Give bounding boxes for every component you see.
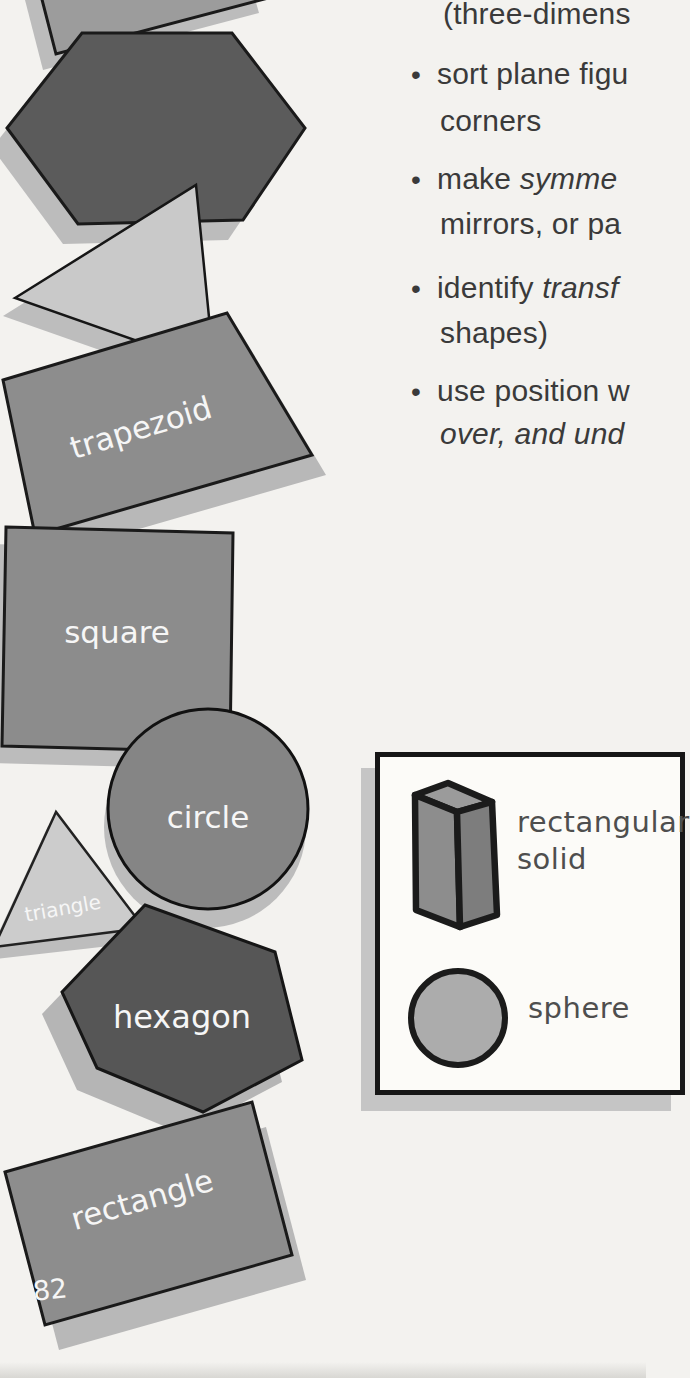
sphere-figure (411, 971, 505, 1065)
sphere-label: sphere (528, 990, 630, 1027)
rectangular-solid-front-face (415, 795, 460, 927)
rectangular-solid-label-line2: solid (517, 841, 690, 878)
objectives-list: (three-dimens •sort plane figu corners •… (0, 0, 646, 480)
square-label: square (64, 614, 170, 650)
objective-line: •make symme (411, 161, 617, 198)
objective-text: shapes) (440, 316, 548, 349)
bullet-dot: • (411, 57, 437, 93)
objective-text-italic: transf (542, 271, 618, 304)
page-number: 82 (31, 1272, 68, 1306)
rectangular-solid-label: rectangular solid (517, 804, 690, 878)
objective-text: corners (440, 104, 541, 137)
rectangular-solid-label-line1: rectangular (517, 804, 690, 841)
objective-text-italic: symme (520, 162, 618, 195)
bullet-dot: • (411, 374, 437, 410)
objective-text: mirrors, or pa (440, 207, 621, 240)
objective-line: shapes) (440, 315, 548, 351)
rectangular-solid-side-face (457, 802, 497, 927)
objective-line: (three-dimens (443, 0, 631, 32)
objective-text: identify (437, 271, 542, 304)
objective-line: •sort plane figu (411, 56, 628, 93)
objective-text: use position w (437, 374, 630, 407)
objective-line: over, and und (440, 416, 624, 452)
objective-line: •use position w (411, 373, 630, 410)
objective-line: corners (440, 103, 541, 139)
objective-text: (three-dimens (443, 0, 631, 30)
objective-line: •identify transf (411, 270, 618, 307)
hexagon-label: hexagon (113, 998, 251, 1036)
rectangular-solid-figure (415, 783, 497, 927)
page-bottom-edge (0, 1362, 646, 1378)
objective-text-italic: over, and und (440, 417, 624, 450)
objective-text: sort plane figu (437, 57, 628, 90)
objective-text: make (437, 162, 520, 195)
bullet-dot: • (411, 162, 437, 198)
circle-label: circle (167, 799, 249, 835)
legend-figures (390, 765, 530, 1075)
objective-line: mirrors, or pa (440, 206, 621, 242)
bullet-dot: • (411, 271, 437, 307)
